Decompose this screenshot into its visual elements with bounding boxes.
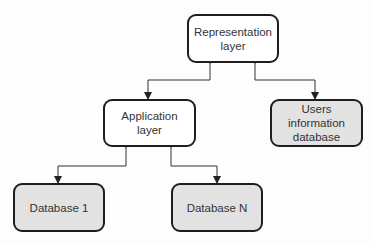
node-database-1: Database 1 (13, 183, 105, 232)
edge-application-db1 (58, 147, 126, 183)
node-label: Database 1 (30, 201, 89, 215)
node-label: Application layer (121, 109, 177, 137)
node-database-n: Database N (171, 183, 263, 232)
node-label: Representation layer (194, 25, 272, 53)
node-application-layer: Application layer (103, 99, 196, 147)
node-label: Database N (187, 201, 248, 215)
edge-representation-application (148, 63, 210, 99)
architecture-diagram: Representation layer Application layer U… (0, 0, 371, 244)
edge-application-dbn (171, 147, 217, 183)
node-label: Users information database (276, 102, 357, 144)
edge-representation-users-db (255, 63, 315, 99)
node-users-information-database: Users information database (270, 99, 363, 147)
node-representation-layer: Representation layer (187, 14, 279, 63)
